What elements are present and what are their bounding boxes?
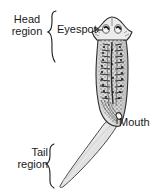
tail-region-label-line2: region	[2, 158, 48, 170]
head-region-brace	[48, 11, 56, 62]
tail-region-label: Tail region	[2, 146, 48, 170]
eyespot-label: Eyespot	[57, 23, 97, 35]
tail-region-label-line1: Tail	[2, 146, 48, 158]
head-region-label-line2: region	[6, 25, 48, 37]
head-region-label: Head region	[6, 13, 48, 37]
eyespot-right	[115, 25, 122, 33]
planarian-diagram-figure: Head region Tail region Eyespot Mouth	[0, 0, 156, 193]
head-region-label-line1: Head	[6, 13, 48, 25]
mouth-label: Mouth	[119, 116, 150, 128]
eyespot-left	[103, 25, 110, 33]
